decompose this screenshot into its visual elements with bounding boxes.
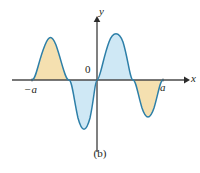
x-tick-label-negative-a: −a <box>24 84 37 95</box>
region-right-trough-fill <box>133 80 163 117</box>
figure-caption: (b) <box>0 148 200 159</box>
figure-container: y x −a a 0 (b) <box>0 0 200 173</box>
x-tick-label-positive-a: a <box>160 82 166 93</box>
origin-label: 0 <box>85 64 91 75</box>
y-axis-label: y <box>99 6 104 17</box>
x-axis-label: x <box>191 73 196 84</box>
region-right-hump-fill <box>97 34 133 80</box>
region-left-hump-fill <box>32 38 69 81</box>
